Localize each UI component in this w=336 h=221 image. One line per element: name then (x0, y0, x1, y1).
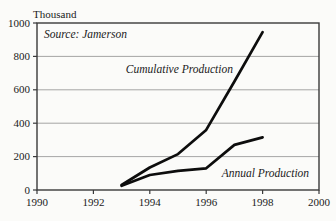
y-tick-label-200: 200 (14, 150, 31, 162)
x-tick-label-1996: 1996 (195, 196, 218, 208)
x-tick-label-1998: 1998 (252, 196, 275, 208)
x-tick-label-2000: 2000 (308, 196, 331, 208)
x-tick-label-1990: 1990 (26, 196, 49, 208)
y-tick-label-800: 800 (14, 50, 31, 62)
y-axis-unit-title: Thousand (33, 8, 77, 20)
x-tick-label-1992: 1992 (82, 196, 104, 208)
series-label-cumulative-production: Cumulative Production (126, 63, 233, 75)
y-tick-label-0: 0 (25, 184, 31, 196)
y-tick-label-600: 600 (14, 83, 31, 95)
y-tick-label-400: 400 (14, 117, 31, 129)
chart-svg: 0200400600800100019901992199419961998200… (0, 0, 336, 221)
series-label-annual-production: Annual Production (221, 167, 310, 179)
source-note: Source: Jamerson (44, 28, 127, 40)
y-tick-label-1000: 1000 (8, 17, 31, 29)
x-tick-label-1994: 1994 (139, 196, 162, 208)
production-line-chart: 0200400600800100019901992199419961998200… (0, 0, 336, 221)
